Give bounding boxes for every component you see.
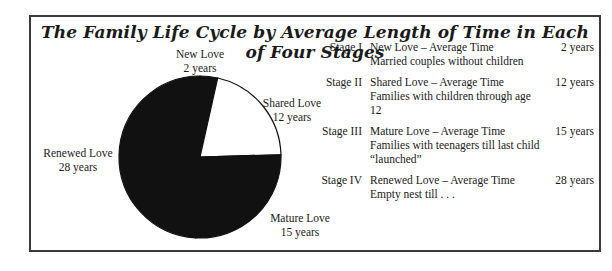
stages-table: Stage I New Love – Average TimeMarried c… <box>310 40 580 208</box>
stage-heading: Shared Love – Average Time <box>370 75 540 89</box>
stage-desc: Families with teenagers till last child … <box>370 138 540 166</box>
stage-desc: Empty nest till . . . <box>370 187 540 201</box>
pie-label-mature-love: Mature Love15 years <box>265 211 335 239</box>
stage-row: Stage II Shared Love – Average TimeFamil… <box>310 75 580 117</box>
pie-label-renewed-love: Renewed Love28 years <box>38 146 118 174</box>
stage-label: Stage III <box>322 124 362 138</box>
pie-label-new-love: New Love2 years <box>175 47 225 75</box>
stage-row: Stage III Mature Love – Average TimeFami… <box>310 124 580 166</box>
stage-years: 2 years <box>561 40 594 54</box>
stage-years: 15 years <box>555 124 594 138</box>
stage-heading: Renewed Love – Average Time <box>370 173 540 187</box>
stage-desc: Families with children through age 12 <box>370 89 540 117</box>
stage-row: Stage I New Love – Average TimeMarried c… <box>310 40 580 68</box>
stage-label: Stage II <box>326 75 362 89</box>
stage-desc: Married couples without children <box>370 54 540 68</box>
pie-slice-renewed-love <box>119 76 200 238</box>
stage-heading: Mature Love – Average Time <box>370 124 540 138</box>
stage-years: 12 years <box>555 75 594 89</box>
stage-years: 28 years <box>555 173 594 187</box>
stage-heading: New Love – Average Time <box>370 40 540 54</box>
stage-label: Stage I <box>330 40 362 54</box>
stage-label: Stage IV <box>321 173 362 187</box>
stage-row: Stage IV Renewed Love – Average TimeEmpt… <box>310 173 580 201</box>
